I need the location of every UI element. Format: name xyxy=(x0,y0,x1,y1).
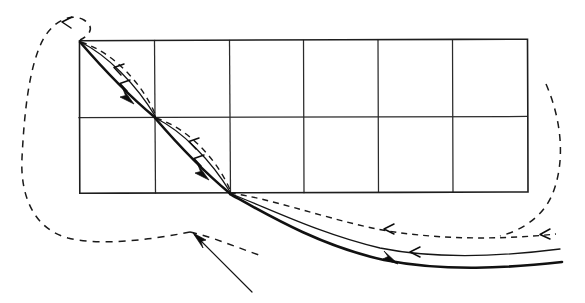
ray-diagram-svg: Hand-drawn ray diagram over rectangular … xyxy=(0,0,585,303)
figure-root: Hand-drawn ray diagram over rectangular … xyxy=(0,0,585,303)
grid-line-vertical-3 xyxy=(304,41,305,193)
grid-line-vertical-4 xyxy=(378,40,379,192)
grid-line-vertical-5 xyxy=(453,40,454,192)
